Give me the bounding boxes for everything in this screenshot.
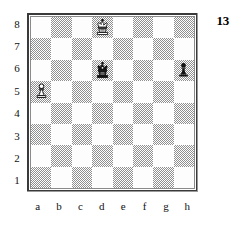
board-square-g2[interactable]: [153, 145, 173, 166]
board-square-e7[interactable]: [113, 38, 133, 59]
chess-board-grid: [31, 17, 194, 188]
file-label-c: c: [70, 198, 91, 214]
black-king-icon[interactable]: [93, 61, 112, 80]
board-square-c2[interactable]: [72, 145, 92, 166]
board-square-f3[interactable]: [133, 124, 153, 145]
board-square-b7[interactable]: [51, 38, 71, 59]
rank-label-7: 7: [10, 35, 24, 57]
board-square-e6[interactable]: [113, 60, 133, 81]
board-square-h6[interactable]: [174, 60, 194, 81]
board-square-g8[interactable]: [153, 17, 173, 38]
board-square-g1[interactable]: [153, 167, 173, 188]
board-square-c5[interactable]: [72, 81, 92, 102]
board-square-a6[interactable]: [31, 60, 51, 81]
white-pawn-icon[interactable]: [32, 82, 51, 101]
board-square-c7[interactable]: [72, 38, 92, 59]
board-square-e3[interactable]: [113, 124, 133, 145]
board-square-h4[interactable]: [174, 103, 194, 124]
board-square-b3[interactable]: [51, 124, 71, 145]
board-square-d8[interactable]: [92, 17, 112, 38]
rank-label-6: 6: [10, 58, 24, 80]
board-square-d6[interactable]: [92, 60, 112, 81]
file-label-f: f: [134, 198, 155, 214]
board-square-d7[interactable]: [92, 38, 112, 59]
rank-label-4: 4: [10, 103, 24, 125]
file-label-a: a: [27, 198, 48, 214]
board-square-a4[interactable]: [31, 103, 51, 124]
rank-label-1: 1: [10, 170, 24, 192]
board-square-h1[interactable]: [174, 167, 194, 188]
board-square-b8[interactable]: [51, 17, 71, 38]
board-square-h5[interactable]: [174, 81, 194, 102]
board-square-f4[interactable]: [133, 103, 153, 124]
file-label-b: b: [48, 198, 69, 214]
board-square-e1[interactable]: [113, 167, 133, 188]
board-square-a1[interactable]: [31, 167, 51, 188]
rank-label-5: 5: [10, 80, 24, 102]
board-square-g4[interactable]: [153, 103, 173, 124]
chess-board-frame: [27, 13, 198, 192]
board-square-a3[interactable]: [31, 124, 51, 145]
file-label-e: e: [113, 198, 134, 214]
board-square-c3[interactable]: [72, 124, 92, 145]
rank-label-2: 2: [10, 147, 24, 169]
board-square-f2[interactable]: [133, 145, 153, 166]
board-square-h7[interactable]: [174, 38, 194, 59]
board-square-f6[interactable]: [133, 60, 153, 81]
file-label-row: abcdefgh: [27, 198, 198, 214]
board-square-e5[interactable]: [113, 81, 133, 102]
board-square-a5[interactable]: [31, 81, 51, 102]
board-square-f1[interactable]: [133, 167, 153, 188]
board-square-b1[interactable]: [51, 167, 71, 188]
board-square-e4[interactable]: [113, 103, 133, 124]
board-square-d2[interactable]: [92, 145, 112, 166]
file-label-g: g: [155, 198, 176, 214]
file-label-h: h: [177, 198, 198, 214]
board-square-f8[interactable]: [133, 17, 153, 38]
board-square-g5[interactable]: [153, 81, 173, 102]
file-label-d: d: [91, 198, 112, 214]
board-square-h3[interactable]: [174, 124, 194, 145]
board-square-b2[interactable]: [51, 145, 71, 166]
board-square-d4[interactable]: [92, 103, 112, 124]
board-square-h2[interactable]: [174, 145, 194, 166]
board-square-b6[interactable]: [51, 60, 71, 81]
board-square-c1[interactable]: [72, 167, 92, 188]
chess-board-inner-border: [30, 16, 195, 189]
board-square-e8[interactable]: [113, 17, 133, 38]
chess-diagram: 13 87654321: [0, 0, 233, 227]
board-square-g7[interactable]: [153, 38, 173, 59]
board-square-c6[interactable]: [72, 60, 92, 81]
board-square-e2[interactable]: [113, 145, 133, 166]
board-square-b5[interactable]: [51, 81, 71, 102]
board-square-c4[interactable]: [72, 103, 92, 124]
board-square-c8[interactable]: [72, 17, 92, 38]
board-square-a8[interactable]: [31, 17, 51, 38]
board-square-h8[interactable]: [174, 17, 194, 38]
rank-label-3: 3: [10, 125, 24, 147]
board-square-f5[interactable]: [133, 81, 153, 102]
board-square-a2[interactable]: [31, 145, 51, 166]
board-square-f7[interactable]: [133, 38, 153, 59]
rank-label-8: 8: [10, 13, 24, 35]
board-square-d3[interactable]: [92, 124, 112, 145]
board-square-g6[interactable]: [153, 60, 173, 81]
board-square-b4[interactable]: [51, 103, 71, 124]
white-king-icon[interactable]: [93, 18, 112, 37]
board-square-g3[interactable]: [153, 124, 173, 145]
diagram-number: 13: [216, 14, 229, 27]
board-square-a7[interactable]: [31, 38, 51, 59]
black-pawn-icon[interactable]: [174, 61, 193, 80]
rank-label-column: 87654321: [10, 13, 24, 192]
board-square-d1[interactable]: [92, 167, 112, 188]
board-square-d5[interactable]: [92, 81, 112, 102]
